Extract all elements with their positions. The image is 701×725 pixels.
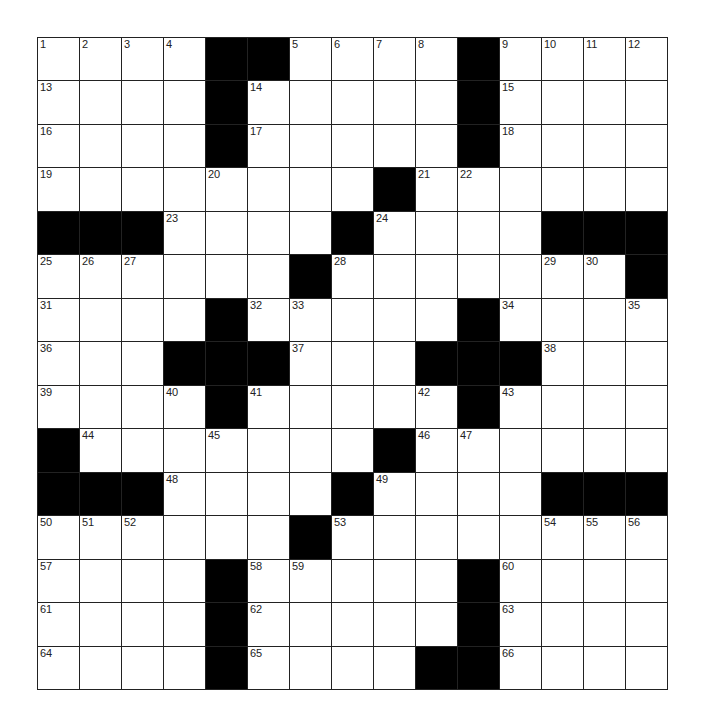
crossword-cell[interactable]: 10	[542, 38, 583, 80]
crossword-cell[interactable]: 30	[584, 255, 625, 297]
crossword-cell[interactable]	[80, 560, 121, 602]
crossword-cell[interactable]	[332, 342, 373, 384]
crossword-cell[interactable]: 4	[164, 38, 205, 80]
crossword-cell[interactable]: 7	[374, 38, 415, 80]
crossword-cell[interactable]	[332, 386, 373, 428]
crossword-cell[interactable]: 28	[332, 255, 373, 297]
crossword-cell[interactable]: 51	[80, 516, 121, 558]
crossword-cell[interactable]	[164, 429, 205, 471]
crossword-cell[interactable]: 32	[248, 299, 289, 341]
crossword-cell[interactable]	[458, 212, 499, 254]
crossword-cell[interactable]	[416, 560, 457, 602]
crossword-cell[interactable]	[122, 125, 163, 167]
crossword-cell[interactable]	[626, 168, 667, 210]
crossword-cell[interactable]: 22	[458, 168, 499, 210]
crossword-cell[interactable]: 43	[500, 386, 541, 428]
crossword-cell[interactable]: 25	[38, 255, 79, 297]
crossword-cell[interactable]	[416, 255, 457, 297]
crossword-cell[interactable]: 56	[626, 516, 667, 558]
crossword-cell[interactable]	[584, 386, 625, 428]
crossword-cell[interactable]	[500, 255, 541, 297]
crossword-cell[interactable]	[248, 212, 289, 254]
crossword-cell[interactable]	[374, 255, 415, 297]
crossword-cell[interactable]	[626, 81, 667, 123]
crossword-cell[interactable]	[122, 386, 163, 428]
crossword-cell[interactable]: 29	[542, 255, 583, 297]
crossword-cell[interactable]: 31	[38, 299, 79, 341]
crossword-cell[interactable]: 5	[290, 38, 331, 80]
crossword-cell[interactable]	[584, 168, 625, 210]
crossword-cell[interactable]	[332, 125, 373, 167]
crossword-cell[interactable]	[80, 342, 121, 384]
crossword-cell[interactable]	[164, 168, 205, 210]
crossword-cell[interactable]	[80, 81, 121, 123]
crossword-cell[interactable]	[500, 429, 541, 471]
crossword-cell[interactable]	[80, 647, 121, 689]
crossword-cell[interactable]: 65	[248, 647, 289, 689]
crossword-cell[interactable]	[248, 429, 289, 471]
crossword-cell[interactable]	[416, 81, 457, 123]
crossword-cell[interactable]	[626, 342, 667, 384]
crossword-cell[interactable]: 3	[122, 38, 163, 80]
crossword-cell[interactable]: 55	[584, 516, 625, 558]
crossword-cell[interactable]	[416, 516, 457, 558]
crossword-cell[interactable]	[374, 516, 415, 558]
crossword-cell[interactable]: 21	[416, 168, 457, 210]
crossword-cell[interactable]: 60	[500, 560, 541, 602]
crossword-cell[interactable]: 1	[38, 38, 79, 80]
crossword-cell[interactable]	[290, 81, 331, 123]
crossword-cell[interactable]	[122, 647, 163, 689]
crossword-cell[interactable]: 23	[164, 212, 205, 254]
crossword-cell[interactable]	[290, 603, 331, 645]
crossword-cell[interactable]	[374, 560, 415, 602]
crossword-cell[interactable]	[122, 342, 163, 384]
crossword-cell[interactable]	[164, 81, 205, 123]
crossword-cell[interactable]: 59	[290, 560, 331, 602]
crossword-cell[interactable]	[416, 603, 457, 645]
crossword-cell[interactable]: 15	[500, 81, 541, 123]
crossword-cell[interactable]: 6	[332, 38, 373, 80]
crossword-cell[interactable]	[332, 429, 373, 471]
crossword-cell[interactable]: 45	[206, 429, 247, 471]
crossword-cell[interactable]: 50	[38, 516, 79, 558]
crossword-cell[interactable]: 42	[416, 386, 457, 428]
crossword-cell[interactable]: 14	[248, 81, 289, 123]
crossword-cell[interactable]	[332, 647, 373, 689]
crossword-cell[interactable]	[416, 212, 457, 254]
crossword-cell[interactable]	[626, 603, 667, 645]
crossword-cell[interactable]	[584, 299, 625, 341]
crossword-cell[interactable]	[458, 473, 499, 515]
crossword-cell[interactable]: 48	[164, 473, 205, 515]
crossword-cell[interactable]: 47	[458, 429, 499, 471]
crossword-cell[interactable]: 27	[122, 255, 163, 297]
crossword-cell[interactable]	[80, 299, 121, 341]
crossword-cell[interactable]	[80, 603, 121, 645]
crossword-cell[interactable]	[374, 647, 415, 689]
crossword-cell[interactable]: 16	[38, 125, 79, 167]
crossword-cell[interactable]: 17	[248, 125, 289, 167]
crossword-cell[interactable]	[542, 299, 583, 341]
crossword-cell[interactable]	[416, 473, 457, 515]
crossword-cell[interactable]	[164, 647, 205, 689]
crossword-cell[interactable]	[290, 212, 331, 254]
crossword-cell[interactable]	[626, 125, 667, 167]
crossword-cell[interactable]: 62	[248, 603, 289, 645]
crossword-cell[interactable]	[416, 125, 457, 167]
crossword-cell[interactable]: 35	[626, 299, 667, 341]
crossword-cell[interactable]	[248, 255, 289, 297]
crossword-cell[interactable]: 61	[38, 603, 79, 645]
crossword-cell[interactable]	[584, 429, 625, 471]
crossword-cell[interactable]: 8	[416, 38, 457, 80]
crossword-cell[interactable]	[122, 81, 163, 123]
crossword-cell[interactable]	[584, 342, 625, 384]
crossword-cell[interactable]	[80, 125, 121, 167]
crossword-cell[interactable]	[290, 429, 331, 471]
crossword-cell[interactable]	[584, 81, 625, 123]
crossword-cell[interactable]	[122, 168, 163, 210]
crossword-cell[interactable]: 57	[38, 560, 79, 602]
crossword-cell[interactable]	[626, 386, 667, 428]
crossword-cell[interactable]	[206, 255, 247, 297]
crossword-cell[interactable]	[290, 168, 331, 210]
crossword-cell[interactable]	[290, 647, 331, 689]
crossword-cell[interactable]	[332, 299, 373, 341]
